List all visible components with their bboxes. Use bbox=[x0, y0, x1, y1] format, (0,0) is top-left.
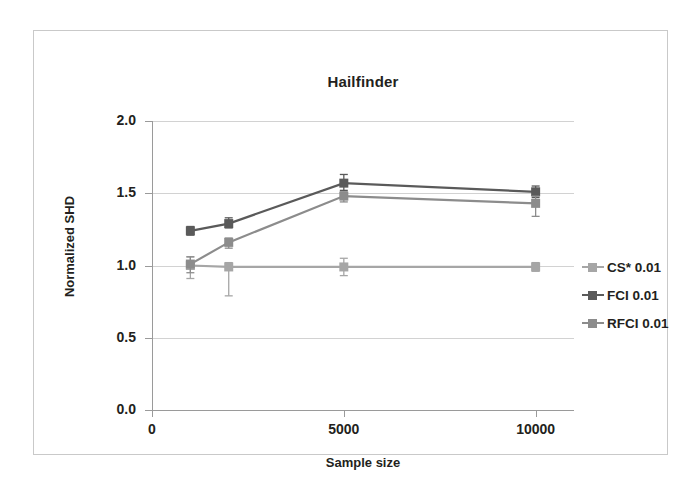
y-axis-tick-label: 0.0 bbox=[90, 401, 136, 417]
plot-area bbox=[152, 121, 574, 410]
series-line bbox=[190, 266, 535, 267]
y-axis-tick-label: 1.0 bbox=[90, 257, 136, 273]
legend-item[interactable]: RFCI 0.01 bbox=[582, 309, 698, 337]
data-point-marker bbox=[339, 262, 348, 271]
x-axis-tick-label: 5000 bbox=[299, 421, 389, 437]
legend-item[interactable]: CS* 0.01 bbox=[582, 253, 698, 281]
x-axis-tick-label: 10000 bbox=[491, 421, 581, 437]
y-axis-title: Normalized SHD bbox=[62, 157, 77, 337]
y-axis-tick-label: 0.5 bbox=[90, 329, 136, 345]
legend-item-label: RFCI 0.01 bbox=[607, 316, 669, 331]
data-point-marker bbox=[224, 219, 233, 228]
x-axis-tick bbox=[536, 410, 537, 417]
data-point-marker bbox=[224, 238, 233, 247]
chart-legend: CS* 0.01FCI 0.01RFCI 0.01 bbox=[582, 253, 698, 337]
data-point-marker bbox=[531, 262, 540, 271]
legend-item-label: FCI 0.01 bbox=[607, 288, 659, 303]
data-point-marker bbox=[339, 179, 348, 188]
legend-item[interactable]: FCI 0.01 bbox=[582, 281, 698, 309]
legend-swatch-icon bbox=[582, 317, 604, 329]
x-axis-tick bbox=[152, 410, 153, 417]
data-point-marker bbox=[339, 192, 348, 201]
data-point-marker bbox=[186, 226, 195, 235]
data-point-marker bbox=[531, 187, 540, 196]
x-axis-tick-label: 0 bbox=[107, 421, 197, 437]
y-axis-tick bbox=[145, 338, 152, 339]
x-axis-tick bbox=[344, 410, 345, 417]
y-axis-tick-label: 2.0 bbox=[90, 112, 136, 128]
y-axis-tick bbox=[145, 121, 152, 122]
y-axis-tick bbox=[145, 266, 152, 267]
series-fci-0-01 bbox=[186, 174, 540, 235]
data-point-marker bbox=[186, 260, 195, 269]
chart-title: Hailfinder bbox=[152, 73, 574, 90]
y-axis-tick bbox=[145, 410, 152, 411]
y-axis-tick bbox=[145, 193, 152, 194]
series-rfci-0-01 bbox=[186, 192, 540, 273]
legend-item-label: CS* 0.01 bbox=[607, 260, 661, 275]
x-axis-line bbox=[152, 410, 574, 411]
legend-swatch-icon bbox=[582, 289, 604, 301]
series-line bbox=[190, 183, 535, 231]
data-point-marker bbox=[224, 262, 233, 271]
y-axis-tick-label: 1.5 bbox=[90, 184, 136, 200]
data-point-marker bbox=[531, 199, 540, 208]
series-line bbox=[190, 196, 535, 264]
series-cs-0-01 bbox=[186, 257, 540, 296]
x-axis-title: Sample size bbox=[152, 455, 574, 470]
legend-swatch-icon bbox=[582, 261, 604, 273]
chart-frame: Hailfinder Normalized SHD Sample size 0.… bbox=[33, 30, 668, 455]
